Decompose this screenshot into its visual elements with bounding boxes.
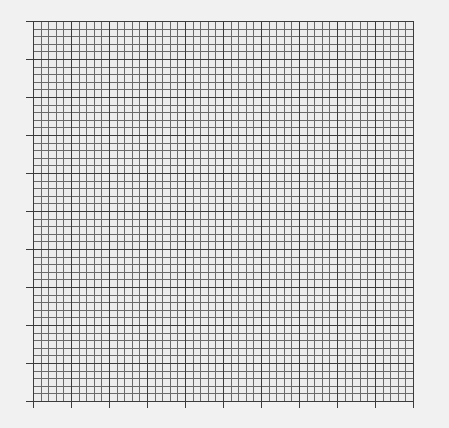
graph-paper (0, 0, 449, 428)
grid-canvas (0, 0, 449, 428)
